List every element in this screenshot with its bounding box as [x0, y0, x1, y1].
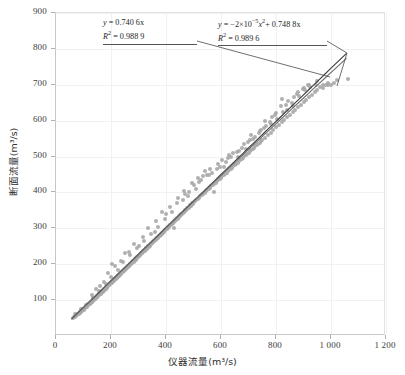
- scatter-point: [301, 87, 305, 91]
- scatter-point: [181, 198, 185, 202]
- scatter-point: [281, 110, 285, 114]
- gridline-horizontal: [56, 121, 384, 122]
- gridline-horizontal: [56, 228, 384, 229]
- linear-equation-text: y = 0.740 6x: [103, 17, 197, 29]
- scatter-point: [212, 190, 216, 194]
- scatter-point: [205, 173, 209, 177]
- scatter-point: [153, 230, 157, 234]
- scatter-point: [236, 155, 240, 159]
- scatter-point: [222, 165, 226, 169]
- scatter-point: [142, 239, 146, 243]
- y-tick-mark: [51, 84, 55, 85]
- y-tick-label: 300: [7, 221, 47, 231]
- scatter-point: [176, 196, 180, 200]
- scatter-point: [262, 126, 266, 130]
- y-tick-label: 200: [7, 257, 47, 267]
- gridline-horizontal: [56, 264, 384, 265]
- scatter-point: [251, 137, 255, 141]
- y-tick-label: 900: [7, 6, 47, 16]
- scatter-point: [292, 95, 296, 99]
- gridline-vertical: [331, 13, 332, 334]
- scatter-point: [109, 275, 113, 279]
- y-tick-mark: [51, 263, 55, 264]
- y-tick-mark: [51, 48, 55, 49]
- plot-area: [55, 12, 385, 335]
- x-tick-mark: [220, 335, 221, 339]
- scatter-point: [314, 83, 318, 87]
- y-tick-label: 700: [7, 78, 47, 88]
- chart-container: 02004006008001 0001 200 1002003004005006…: [0, 0, 405, 375]
- x-tick-label: 800: [245, 340, 305, 350]
- y-tick-label: 800: [7, 42, 47, 52]
- x-tick-label: 1 000: [300, 340, 360, 350]
- x-tick-mark: [385, 335, 386, 339]
- scatter-point: [79, 307, 83, 311]
- y-tick-mark: [51, 120, 55, 121]
- x-tick-mark: [55, 335, 56, 339]
- scatter-point: [168, 205, 172, 209]
- scatter-point: [290, 101, 294, 105]
- x-tick-label: 1 200: [355, 340, 405, 350]
- scatter-point: [246, 140, 250, 144]
- gridline-horizontal: [56, 300, 384, 301]
- x-tick-mark: [110, 335, 111, 339]
- scatter-point: [149, 232, 153, 236]
- scatter-point: [199, 178, 203, 182]
- scatter-point: [186, 194, 190, 198]
- x-tick-mark: [165, 335, 166, 339]
- scatter-point: [98, 284, 102, 288]
- x-tick-label: 200: [80, 340, 140, 350]
- scatter-point: [257, 131, 261, 135]
- scatter-point: [224, 160, 228, 164]
- scatter-point: [128, 253, 132, 257]
- annotation-underline: [218, 45, 327, 46]
- scatter-point: [235, 150, 239, 154]
- scatter-point: [97, 289, 101, 293]
- y-axis-title: 断面流量(m³/s): [6, 102, 20, 222]
- annotation-linear-fit: y = 0.740 6x R2 = 0.988 9: [103, 17, 197, 45]
- x-axis-title: 仪器流量(m³/s): [0, 354, 405, 368]
- y-tick-mark: [51, 299, 55, 300]
- x-tick-mark: [275, 335, 276, 339]
- x-tick-label: 400: [135, 340, 195, 350]
- x-tick-label: 0: [25, 340, 85, 350]
- scatter-point: [156, 225, 160, 229]
- scatter-point: [285, 108, 289, 112]
- scatter-point: [175, 201, 179, 205]
- annotation-quadratic-fit: y = −2×10−5x2+ 0.748 8x R2 = 0.989 6: [218, 17, 327, 46]
- scatter-point: [146, 226, 150, 230]
- quadratic-r2-text: R2 = 0.989 6: [218, 31, 327, 45]
- scatter-point: [263, 119, 267, 123]
- x-tick-mark: [330, 335, 331, 339]
- linear-r2-text: R2 = 0.988 9: [103, 29, 197, 43]
- gridline-horizontal: [56, 13, 384, 14]
- scatter-point: [284, 103, 288, 107]
- gridline-vertical: [166, 13, 167, 334]
- scatter-point: [164, 212, 168, 216]
- gridline-horizontal: [56, 49, 384, 50]
- scatter-point: [229, 155, 233, 159]
- gridline-vertical: [111, 13, 112, 334]
- scatter-point: [210, 171, 214, 175]
- scatter-point: [154, 219, 158, 223]
- gridline-horizontal: [56, 192, 384, 193]
- gridline-horizontal: [56, 85, 384, 86]
- quadratic-equation-text: y = −2×10−5x2+ 0.748 8x: [218, 17, 327, 31]
- scatter-point: [291, 104, 295, 108]
- scatter-point: [321, 86, 325, 90]
- scatter-point: [135, 246, 139, 250]
- gridline-vertical: [276, 13, 277, 334]
- y-tick-mark: [51, 191, 55, 192]
- scatter-point: [170, 210, 174, 214]
- scatter-point: [346, 77, 350, 81]
- scatter-point: [182, 189, 186, 193]
- scatter-point: [104, 282, 108, 286]
- scatter-point: [280, 97, 284, 101]
- y-tick-mark: [51, 156, 55, 157]
- y-tick-label: 100: [7, 293, 47, 303]
- x-tick-label: 600: [190, 340, 250, 350]
- annotation-underline: [103, 44, 197, 45]
- gridline-vertical: [386, 13, 387, 334]
- scatter-point: [279, 104, 283, 108]
- y-tick-mark: [51, 227, 55, 228]
